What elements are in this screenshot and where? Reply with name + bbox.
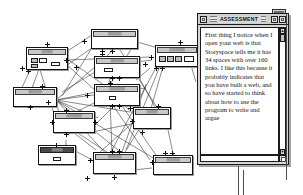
writing-space-s11[interactable]: ▒▒▒▒▒▒ [153,155,193,175]
assessment-titlebar[interactable]: ASSESSMENT [198,14,288,25]
writing-space-s5[interactable]: ▒▒▒▒▒▒▒ [155,45,199,67]
mini-space-glyph [109,96,116,100]
assessment-window-title: ASSESSMENT [217,16,261,23]
writing-space-s1[interactable]: ▒▒▒▒▒ [26,47,68,70]
maximize-icon-inner [281,18,284,21]
writing-space-s3[interactable]: ▒▒▒▒▒▒ [94,56,140,78]
mini-space-glyph [31,58,38,63]
zoom-icon-inner [273,18,276,21]
writing-space-s6[interactable]: ▒▒▒▒▒▒ [13,87,57,107]
link-endpoint-marker [85,176,90,181]
writing-space-s2[interactable]: ▒▒▒▒▒▒ [91,29,138,49]
scroll-up-arrow-icon[interactable]: ▲ [280,28,285,34]
writing-space-body [156,53,198,66]
link-endpoint-marker [112,175,117,180]
link-endpoint-marker [110,49,115,54]
vertical-scrollbar[interactable]: ▲ ▼ [279,27,286,155]
vertical-scrollbar-thumb[interactable] [280,34,285,42]
writing-space-s7[interactable]: ▒▒▒▒▒▒▒ [53,111,95,133]
writing-space-s9[interactable]: ▒▒▒▒▒ [133,107,171,129]
close-icon-inner [202,18,205,21]
writing-space-body [95,64,139,77]
mini-space-glyph [167,56,174,62]
underlying-window-edge [286,14,287,180]
writing-space-body [154,163,192,174]
storyspace-screenshot: ▒▒▒▒▒ ▒▒▒▒▒▒ ▒▒▒▒▒▒ ▒▒▒▒▒▒▒ [0,0,303,195]
link-endpoint-marker [74,65,79,70]
writing-space-body [95,92,139,105]
mini-space-glyph [159,56,166,62]
writing-space-body [39,153,75,164]
writing-space-body [27,55,67,69]
underlying-window-edge [243,170,244,195]
resize-grow-box[interactable] [279,155,286,162]
link-endpoint-marker [143,62,148,67]
writing-space-s8[interactable]: ▒▒▒▒▒ [38,145,76,165]
writing-space-body [92,37,137,48]
writing-space-s10[interactable]: ▒▒▒▒▒▒ [93,152,136,174]
mini-space-glyph [53,157,61,161]
assessment-body-text: First thing I notice when I open your we… [205,31,275,123]
assessment-window[interactable]: ASSESSMENT First thing I notice when I o… [197,13,289,165]
underlying-window-edge [238,166,239,195]
link-endpoint-marker [140,130,145,135]
writing-space-s4[interactable]: ▒▒▒▒▒▒▒ [94,84,140,106]
link-endpoint-marker [100,49,105,54]
mini-space-glyph [39,58,47,63]
mini-space-glyph [184,56,194,62]
writing-space-body [94,160,135,173]
link-endpoint-marker [149,55,154,60]
writing-space-body [134,115,170,128]
assessment-window-client: First thing I notice when I open your we… [198,25,288,164]
zoom-icon[interactable] [271,16,278,23]
mini-space-glyph [31,64,38,68]
mini-space-glyph [104,68,113,72]
assessment-text-area[interactable]: First thing I notice when I open your we… [200,27,279,155]
close-icon[interactable] [200,16,207,23]
scroll-down-arrow-icon[interactable]: ▼ [280,149,285,155]
writing-space-body [54,119,94,132]
link-endpoint-marker [82,39,87,44]
mini-space-glyph [51,62,60,66]
link-endpoint-marker [20,66,25,71]
mini-space-glyph [175,56,182,62]
maximize-icon[interactable] [279,16,286,23]
horizontal-scrollbar[interactable] [200,155,279,162]
link-endpoint-marker [85,93,90,98]
writing-space-body [14,95,56,106]
